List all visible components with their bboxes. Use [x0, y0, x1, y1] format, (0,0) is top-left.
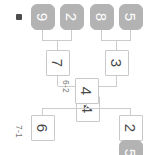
bracket-rotor: 5 8 2 9 3 7 4	[0, 0, 147, 155]
connector-seed-out-upper	[116, 40, 117, 50]
connector-round1-4	[57, 76, 58, 86]
connector-round1-3	[116, 76, 117, 86]
bracket-marker-icon	[16, 14, 22, 20]
round1-slot-3[interactable]: 3	[105, 50, 129, 76]
round2-slot-1[interactable]: 4	[75, 78, 99, 104]
connector-seed-2	[101, 30, 102, 40]
connector-seed-3	[71, 30, 72, 40]
seed-slot-4[interactable]: 9	[31, 4, 55, 30]
connector-round2-in	[86, 104, 87, 108]
connector-round1-1	[130, 108, 131, 115]
connector-round1-bracket	[43, 108, 131, 109]
score-label-upper: 6-2	[61, 80, 71, 93]
round1-slot-1[interactable]: 2	[119, 115, 143, 141]
round1-slot-4[interactable]: 7	[46, 50, 70, 76]
bracket-screen: 5 8 2 9 3 7 4	[0, 0, 147, 155]
tournament-bracket: 5 8 2 9 3 7 4	[0, 0, 147, 155]
connector-seed-1	[130, 30, 131, 40]
round1-slot-2[interactable]: 6	[31, 115, 55, 141]
connector-round1-2	[42, 108, 43, 115]
score-label-lower: 7-1	[14, 125, 24, 138]
seed-slot-3[interactable]: 2	[60, 4, 84, 30]
seed-slot-2[interactable]: 8	[90, 4, 114, 30]
seed-slot-1[interactable]: 5	[119, 4, 143, 30]
connector-seed-4	[42, 30, 43, 40]
connector-seed-out-lower	[57, 40, 58, 50]
top-partial-slot[interactable]: 5	[119, 140, 143, 155]
